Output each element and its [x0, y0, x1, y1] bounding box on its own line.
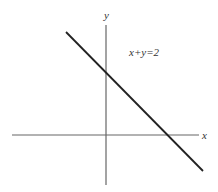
diagram-canvas: x y x+y=2	[0, 0, 218, 192]
equation-label: x+y=2	[128, 46, 160, 58]
y-axis-label: y	[103, 9, 109, 21]
x-axis-label: x	[201, 129, 207, 141]
coordinate-diagram: x y x+y=2	[0, 0, 218, 192]
